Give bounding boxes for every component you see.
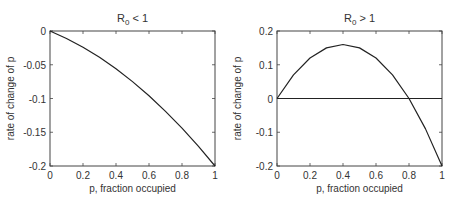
x-tick-label: 0.4 (109, 170, 123, 181)
y-axis-label: rate of change of p (5, 56, 16, 140)
x-tick-label: 0.2 (76, 170, 90, 181)
title-rest: < 1 (129, 12, 148, 24)
chart-title: R0 > 1 (344, 12, 375, 27)
y-tick-label: -0.05 (23, 60, 46, 71)
y-tick-label: 0.2 (259, 26, 273, 37)
x-tick-label: 0.4 (336, 170, 350, 181)
figure: 00.20.40.60.810-0.05-0.1-0.15-0.2R0 < 1p… (0, 0, 453, 203)
chart-title: R0 < 1 (117, 12, 148, 27)
x-tick-label: 0.8 (402, 170, 416, 181)
chart-r0-less-than-1: 00.20.40.60.810-0.05-0.1-0.15-0.2R0 < 1p… (5, 12, 218, 194)
x-tick-label: 0.8 (175, 170, 189, 181)
x-tick-label: 0 (274, 170, 280, 181)
x-tick-label: 1 (212, 170, 218, 181)
y-tick-label: -0.2 (29, 161, 47, 172)
chart-r0-greater-than-1: 00.20.40.60.810.20.10-0.1-0.2R0 > 1p, fr… (232, 12, 445, 194)
x-tick-label: 0.2 (303, 170, 317, 181)
y-tick-label: 0 (40, 26, 46, 37)
y-tick-label: -0.1 (256, 127, 274, 138)
y-tick-label: 0.1 (259, 60, 273, 71)
axes-box (50, 31, 215, 166)
data-line (50, 31, 215, 166)
y-axis-label: rate of change of p (232, 56, 243, 140)
x-axis-label: p, fraction occupied (89, 183, 176, 194)
y-tick-label: 0 (267, 94, 273, 105)
title-main: R (344, 12, 352, 24)
x-tick-label: 0 (47, 170, 53, 181)
data-line (277, 45, 442, 167)
x-tick-label: 0.6 (369, 170, 383, 181)
title-main: R (117, 12, 125, 24)
y-tick-label: -0.2 (256, 161, 274, 172)
title-rest: > 1 (356, 12, 375, 24)
x-axis-label: p, fraction occupied (316, 183, 403, 194)
x-tick-label: 1 (439, 170, 445, 181)
x-tick-label: 0.6 (142, 170, 156, 181)
y-tick-label: -0.1 (29, 94, 47, 105)
y-tick-label: -0.15 (23, 127, 46, 138)
